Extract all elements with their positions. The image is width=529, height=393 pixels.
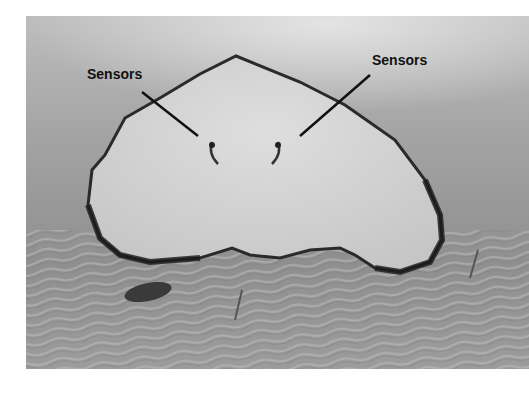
right-sensor-dot bbox=[275, 142, 281, 148]
sensors-label-left: Sensors bbox=[87, 66, 142, 82]
sensors-label-right: Sensors bbox=[372, 52, 427, 68]
stingray-photo: Sensors Sensors bbox=[26, 16, 529, 369]
left-sensor-dot bbox=[209, 142, 215, 148]
